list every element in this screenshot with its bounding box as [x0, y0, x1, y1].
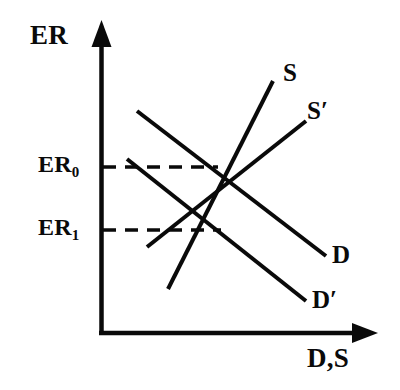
y-axis-label: ER: [30, 22, 68, 49]
diagram-canvas: [0, 0, 400, 390]
tick-label-er0-subscript: 0: [72, 164, 80, 180]
curve-supply-s-prime: [147, 121, 306, 247]
tick-label-er1: ER1: [38, 215, 79, 239]
curve-label-demand-d: D: [332, 242, 350, 267]
tick-label-er1-subscript: 1: [72, 227, 80, 243]
curve-label-supply-s: S: [283, 60, 297, 85]
exchange-rate-supply-demand-diagram: ER D,S ER0 ER1 S S′ D D′: [0, 0, 400, 390]
x-axis-label: D,S: [307, 345, 349, 372]
curve-label-demand-d-prime: D′: [312, 287, 337, 312]
tick-label-er0-text: ER: [38, 151, 72, 177]
x-axis-arrow-icon: [352, 323, 378, 343]
tick-label-er1-text: ER: [38, 214, 72, 240]
curve-label-supply-s-prime: S′: [307, 98, 328, 123]
curve-supply-s: [168, 81, 273, 289]
tick-label-er0: ER0: [38, 152, 79, 176]
y-axis-arrow-icon: [92, 20, 112, 47]
